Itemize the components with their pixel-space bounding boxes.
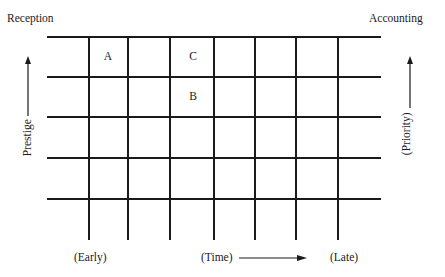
priority-arrow-icon [405,56,415,108]
grid-vline-5 [254,36,256,240]
grid-vline-1 [88,36,90,240]
time-arrow-icon [239,253,309,263]
early-label: (Early) [74,252,107,264]
grid-vline-3 [169,36,171,240]
cell-marker-b: B [189,91,197,103]
late-label: (Late) [330,252,358,264]
prestige-arrow-icon [23,56,33,116]
cell-marker-a: A [104,51,112,63]
priority-label: (Priority) [401,112,413,155]
accounting-label: Accounting [369,13,423,25]
cell-marker-c: C [189,51,197,63]
grid-vline-7 [337,36,339,240]
grid-vline-6 [295,36,297,240]
grid-vline-2 [127,36,129,240]
prestige-label: Prestige [22,119,34,156]
grid-vline-4 [213,36,215,240]
time-label: (Time) [201,252,233,264]
reception-label: Reception [7,13,54,25]
